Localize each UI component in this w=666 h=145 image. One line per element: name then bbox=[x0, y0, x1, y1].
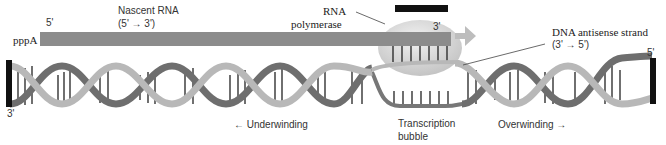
dna-right-5prime-label: 5' bbox=[647, 47, 654, 59]
transcription-bubble-label-1: Transcription bbox=[398, 118, 455, 130]
rna-polymerase-label-2: polymerase bbox=[291, 18, 342, 30]
transcription-bubble-label-2: bubble bbox=[398, 131, 428, 143]
dna-left-3prime-label: 3' bbox=[7, 108, 14, 120]
dna-right-end-cap bbox=[650, 58, 656, 104]
dna-left-end-cap bbox=[6, 60, 12, 107]
bubble-base-pairs bbox=[394, 91, 448, 105]
polymerase-top-bar bbox=[395, 5, 448, 12]
ppp-a-label: pppA bbox=[13, 34, 37, 46]
antisense-leader-line bbox=[463, 44, 545, 65]
nascent-rna-bar bbox=[40, 32, 451, 46]
rna-3prime-label: 3' bbox=[433, 21, 440, 33]
overwinding-label: Overwinding → bbox=[498, 119, 566, 131]
dna-antisense-label: DNA antisense strand bbox=[552, 26, 648, 38]
nascent-rna-direction: (5' → 3') bbox=[118, 18, 155, 30]
dna-antisense-direction: (3' → 5') bbox=[552, 39, 589, 51]
underwinding-label: ← Underwinding bbox=[234, 119, 308, 131]
polymerase-leader-line bbox=[356, 12, 385, 24]
nascent-rna-label: Nascent RNA bbox=[118, 5, 179, 17]
rna-polymerase-label-1: RNA bbox=[323, 5, 346, 17]
rna-5prime-label: 5' bbox=[46, 17, 53, 29]
